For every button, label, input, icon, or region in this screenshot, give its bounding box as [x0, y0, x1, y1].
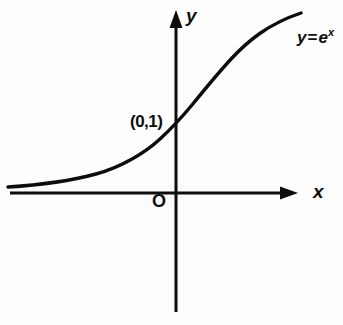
equation-exponent: x: [328, 26, 334, 38]
x-axis-arrowhead: [280, 187, 298, 200]
curve-equation-label: y=ex: [297, 27, 334, 46]
graph-canvas: [0, 0, 343, 325]
origin-label: O: [152, 192, 166, 210]
exponential-graph-figure: y x O (0,1) y=ex: [0, 0, 343, 325]
equation-base: e: [318, 28, 327, 47]
y-axis-arrowhead: [170, 10, 183, 28]
y-axis-label: y: [186, 6, 197, 25]
equation-operator: =: [306, 28, 318, 47]
x-axis-label: x: [313, 182, 324, 201]
exponential-curve: [8, 13, 301, 187]
y-intercept-point-label: (0,1): [130, 113, 162, 130]
